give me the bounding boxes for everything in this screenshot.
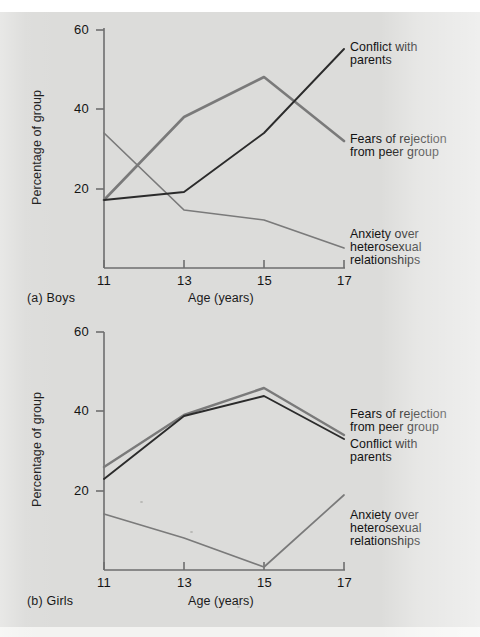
- boys-label-conflict-with-parents: Conflict with parents: [350, 41, 417, 67]
- boys-axes: [96, 28, 345, 268]
- boys-y-axis-title: Percentage of group: [30, 90, 44, 205]
- scan-speck: [140, 501, 143, 503]
- scan-speck: [190, 531, 193, 533]
- boys-series-anxiety-over-heterosexual-relationships: [104, 133, 344, 248]
- panel-caption-boys: (a) Boys: [27, 291, 75, 305]
- boys-xtick-13: 13: [177, 273, 192, 288]
- boys-label-anxiety-line3: relationships: [350, 254, 422, 267]
- girls-x-axis-title: Age (years): [188, 594, 254, 608]
- boys-xtick-17: 17: [337, 273, 352, 288]
- boys-x-axis-title: Age (years): [188, 291, 254, 305]
- boys-label-fears-line2: from peer group: [350, 146, 447, 159]
- girls-label-anxiety-over-heterosexual: Anxiety over heterosexual relationships: [350, 509, 422, 549]
- girls-ytick-60: 60: [74, 324, 89, 339]
- girls-xtick-13: 13: [177, 575, 192, 590]
- chart-panel-girls: Percentage of group 60 40 20 11 13 15 17…: [0, 318, 480, 637]
- chart-panel-boys: Percentage of group 60 40 20 11 13 15 17…: [0, 0, 480, 318]
- girls-label-conflict-with-parents: Conflict with parents: [350, 438, 417, 464]
- boys-xtick-11: 11: [97, 273, 111, 288]
- boys-ytick-40: 40: [74, 101, 89, 116]
- scan-speck: [237, 606, 240, 608]
- girls-series-fears-of-rejection: [104, 388, 344, 467]
- girls-label-fears-line2: from peer group: [350, 421, 447, 434]
- girls-label-fears-of-rejection: Fears of rejection from peer group: [350, 408, 447, 434]
- boys-ytick-60: 60: [74, 22, 89, 37]
- boys-ytick-20: 20: [74, 181, 89, 196]
- girls-xtick-17: 17: [337, 575, 352, 590]
- girls-xtick-11: 11: [97, 575, 111, 590]
- girls-ytick-40: 40: [74, 403, 89, 418]
- figure-page: Percentage of group 60 40 20 11 13 15 17…: [0, 0, 480, 637]
- girls-label-anxiety-line3: relationships: [350, 535, 422, 548]
- boys-xtick-15: 15: [257, 273, 272, 288]
- girls-axes: [96, 332, 345, 570]
- girls-ytick-20: 20: [74, 483, 89, 498]
- boys-label-anxiety-over-heterosexual: Anxiety over heterosexual relationships: [350, 228, 422, 268]
- panel-caption-girls: (b) Girls: [27, 594, 73, 608]
- girls-label-conflict-line2: parents: [350, 451, 417, 464]
- boys-label-conflict-line2: parents: [350, 54, 417, 67]
- figure-plate: Percentage of group 60 40 20 11 13 15 17…: [0, 0, 480, 637]
- boys-series-fears-of-rejection: [104, 77, 344, 200]
- girls-series-anxiety-over-heterosexual-relationships: [104, 495, 344, 567]
- girls-xtick-15: 15: [257, 575, 272, 590]
- girls-y-axis-title: Percentage of group: [30, 392, 44, 507]
- scan-speck: [63, 301, 66, 303]
- boys-label-fears-of-rejection: Fears of rejection from peer group: [350, 133, 447, 159]
- girls-series-conflict-with-parents: [104, 396, 344, 479]
- girls-plot-svg: [0, 318, 480, 637]
- boys-series-conflict-with-parents: [104, 49, 344, 200]
